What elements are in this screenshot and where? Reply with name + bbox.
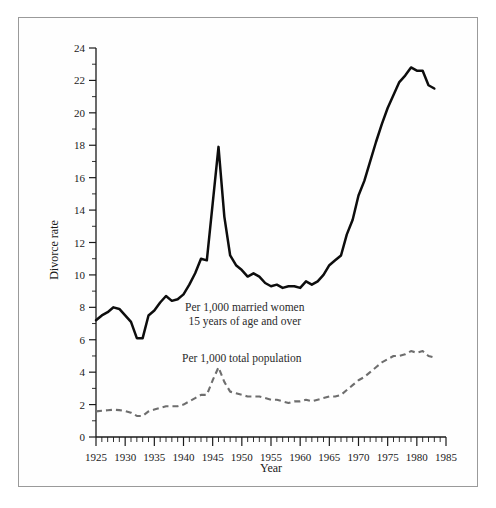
y-tick-label: 8	[80, 301, 86, 313]
y-tick-label: 24	[74, 42, 86, 54]
x-tick-label: 1950	[231, 451, 254, 463]
y-axis-title: Divorce rate	[47, 220, 61, 280]
y-tick-label: 14	[74, 204, 86, 216]
x-tick-label: 1980	[406, 451, 429, 463]
series-married-women-line	[96, 67, 434, 338]
y-tick-label: 4	[80, 366, 86, 378]
y-tick-label: 10	[74, 269, 86, 281]
x-tick-label: 1925	[85, 451, 108, 463]
y-tick-label: 22	[74, 74, 85, 86]
x-tick-label: 1970	[348, 451, 371, 463]
x-tick-label: 1965	[318, 451, 341, 463]
x-tick-label: 1940	[173, 451, 196, 463]
y-axis-tick-labels: 024681012141618202224	[74, 42, 86, 443]
y-tick-label: 0	[80, 431, 86, 443]
x-axis-title: Year	[260, 461, 282, 475]
x-tick-label: 1935	[143, 451, 166, 463]
x-tick-label: 1930	[114, 451, 137, 463]
x-tick-label: 1945	[202, 451, 225, 463]
x-tick-label: 1985	[435, 451, 458, 463]
y-tick-label: 2	[80, 399, 86, 411]
x-tick-label: 1975	[377, 451, 400, 463]
axes	[96, 48, 446, 437]
y-tick-label: 16	[74, 172, 86, 184]
y-tick-label: 20	[74, 107, 86, 119]
y-axis-ticks	[89, 48, 96, 437]
x-tick-label: 1960	[289, 451, 312, 463]
y-tick-label: 18	[74, 139, 86, 151]
divorce-rate-chart: 024681012141618202224 192519301935194019…	[0, 0, 496, 508]
y-tick-label: 6	[80, 334, 86, 346]
annot-married-women: Per 1,000 married women15 years of age a…	[185, 301, 305, 328]
y-tick-label: 12	[74, 237, 85, 249]
annot-total-population: Per 1,000 total population	[182, 352, 302, 365]
chart-annotations: Per 1,000 married women15 years of age a…	[182, 301, 305, 366]
x-axis-ticks	[96, 437, 446, 446]
